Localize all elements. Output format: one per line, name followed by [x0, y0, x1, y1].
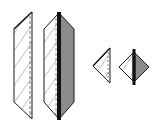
small-full-prism: [119, 49, 149, 85]
prism-diagram: [0, 0, 159, 131]
shaded-face: [135, 53, 149, 81]
spine: [57, 12, 61, 120]
shaded-face: [60, 14, 74, 118]
spine: [133, 49, 136, 85]
diagram-canvas: [0, 0, 159, 131]
large-full-prism: [44, 12, 74, 120]
large-half-prism: [14, 12, 32, 119]
small-half-prism: [93, 48, 110, 83]
